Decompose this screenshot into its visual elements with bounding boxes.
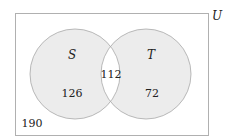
universe-label: U [212, 9, 223, 23]
outside-count: 190 [22, 117, 43, 130]
set-s-only-count: 126 [62, 87, 83, 100]
intersection-count: 112 [101, 68, 122, 81]
set-t-label: T [147, 48, 156, 62]
venn-diagram: U S T 112 126 72 190 [0, 0, 230, 139]
set-s-label: S [68, 48, 76, 62]
set-t-only-count: 72 [145, 87, 159, 100]
